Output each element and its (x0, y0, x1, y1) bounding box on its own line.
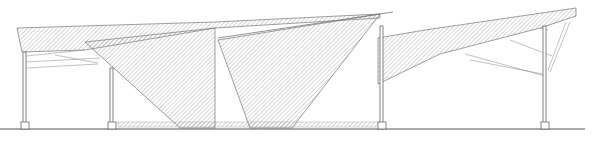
roof-plane-center (218, 14, 380, 128)
footing-1 (21, 122, 29, 129)
column-1 (23, 52, 26, 124)
footing-4 (541, 122, 549, 129)
elevation-drawing (0, 0, 598, 142)
truss-left (26, 50, 100, 68)
footing-3 (378, 122, 386, 129)
roof-plane-center-left (85, 28, 215, 128)
footing-2 (108, 122, 116, 129)
column-3 (380, 26, 383, 124)
column-4 (543, 26, 546, 124)
column-2 (110, 68, 113, 124)
